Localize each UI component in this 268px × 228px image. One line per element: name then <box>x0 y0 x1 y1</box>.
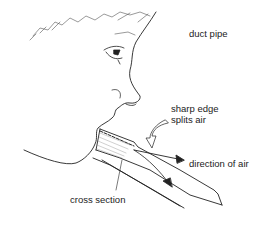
hair-strokes <box>30 12 150 40</box>
lips <box>126 104 136 106</box>
duct-pipe-diagram: duct pipe sharp edge splits air directio… <box>0 0 268 228</box>
cross-section-leader <box>116 160 122 190</box>
label-splits-air: splits air <box>171 114 206 125</box>
label-sharp-edge: sharp edge <box>171 103 219 114</box>
illustration <box>0 0 268 228</box>
label-duct-pipe: duct pipe <box>189 28 228 39</box>
face-profile <box>24 12 156 164</box>
label-direction-of-air: direction of air <box>189 158 249 169</box>
direction-arrow <box>134 150 184 163</box>
eye <box>104 46 124 64</box>
sharp-edge-pointer <box>146 120 168 148</box>
label-cross-section: cross section <box>70 194 125 205</box>
nostril <box>112 89 121 98</box>
